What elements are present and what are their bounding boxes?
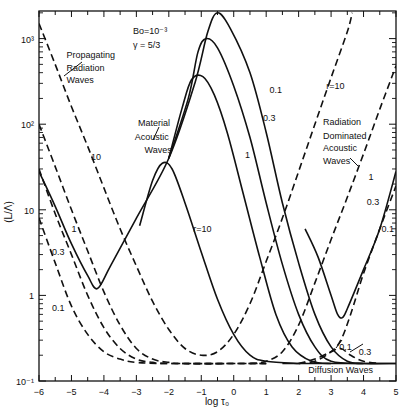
series-label: 0.3 (263, 113, 276, 123)
series-line (299, 186, 396, 364)
series-label: 0.1 (381, 224, 394, 234)
annotation-text: Radiation (323, 117, 361, 127)
annotation-text: Dominated (323, 131, 367, 141)
x-tick-label: 1 (264, 387, 269, 397)
radiation-dominated-arrow (350, 158, 358, 166)
x-tick-label: 3 (329, 387, 334, 397)
series-line (39, 124, 266, 363)
series-label: 0.3 (359, 347, 372, 357)
y-axis-label: (L/Λ) (3, 201, 14, 223)
annotation-text: Propagating (67, 50, 116, 60)
series-line (250, 66, 396, 364)
series-line (169, 75, 331, 363)
y-tick-label: 10⁻¹ (16, 377, 34, 387)
x-tick-label: 5 (393, 387, 398, 397)
x-tick-label: −3 (131, 387, 141, 397)
annotation-text: Waves (323, 156, 351, 166)
annotation-text: Waves (67, 75, 95, 85)
y-tick-label: 10 (24, 206, 34, 216)
series-label: 0.1 (52, 303, 65, 313)
x-tick-label: −5 (66, 387, 76, 397)
x-tick-label: −4 (99, 387, 109, 397)
annotation-text: Material (138, 118, 170, 128)
x-tick-label: 4 (361, 387, 366, 397)
series-line (39, 218, 266, 363)
annotation-text: Acoustic (135, 132, 170, 142)
series-label: r=10 (193, 224, 211, 234)
series-label: 1 (71, 224, 76, 234)
x-tick-label: −2 (164, 387, 174, 397)
x-tick-label: 2 (296, 387, 301, 397)
annotation-text: Diffusion Waves (308, 365, 373, 375)
annotation-text: Radiation (67, 63, 105, 73)
series-line (305, 172, 396, 319)
line-chart: −6−5−4−3−2−101234510⁻¹11010²10³ 0.10.31r… (0, 0, 408, 411)
series-label: 0.1 (269, 85, 282, 95)
series-line (140, 162, 299, 363)
series-line (39, 169, 266, 364)
series-label: 10 (91, 152, 101, 162)
series-label: 0.3 (367, 197, 380, 207)
series-label: 0.3 (52, 247, 65, 257)
parameter-bo: Bo=10⁻³ (133, 26, 167, 36)
parameter-gamma: γ = 5/3 (133, 40, 160, 50)
x-tick-label: −6 (34, 387, 44, 397)
y-tick-label: 10³ (21, 35, 34, 45)
series-label: 1 (245, 150, 250, 160)
x-axis-label: log τ₀ (205, 396, 229, 407)
series-label: 0.1 (339, 342, 352, 352)
series-label: r=10 (326, 81, 344, 91)
annotation-text: Acoustic (323, 143, 358, 153)
series-label: 1 (368, 172, 373, 182)
annotation-text: Waves (144, 145, 172, 155)
y-tick-label: 1 (29, 291, 34, 301)
x-tick-label: 0 (231, 387, 236, 397)
chart-container: −6−5−4−3−2−101234510⁻¹11010²10³ 0.10.31r… (0, 0, 408, 411)
y-tick-label: 10² (21, 120, 34, 130)
